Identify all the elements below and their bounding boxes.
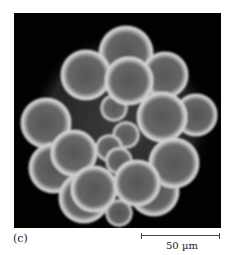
scale-bar-tick-left [141, 233, 142, 239]
scale-bar-label: 50 µm [166, 240, 198, 251]
micrograph-image [14, 13, 221, 228]
scale-bar-line [141, 235, 220, 236]
cell-cluster [14, 13, 221, 228]
scale-bar [141, 233, 220, 239]
panel-label: (c) [13, 232, 28, 245]
scale-bar-tick-right [219, 233, 220, 239]
